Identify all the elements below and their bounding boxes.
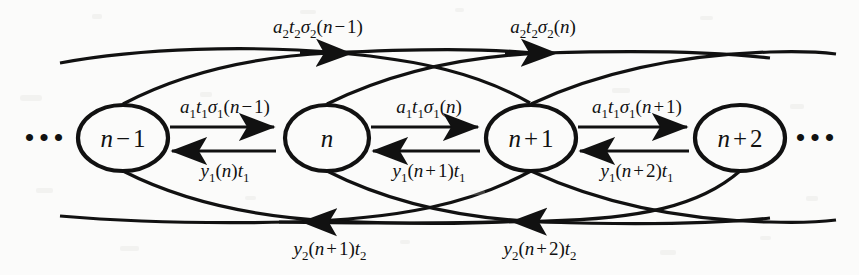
long-forward-edge-label-2: a2t2σ2(n) (510, 16, 576, 41)
long-backward-edge-label-1: y2(n+1)t2 (292, 238, 367, 263)
long-backward-arrowhead-1 (318, 222, 355, 223)
long-forward-edge-labels: a2t2σ2(n−1) a2t2σ2(n) (273, 16, 576, 41)
long-forward-arrowhead-1 (300, 53, 335, 54)
forward-edge-labels: a1t1σ1(n−1) a1t1σ1(n) a1t1σ1(n+1) (180, 96, 682, 121)
node-label-n-plus-1: n+1 (508, 125, 553, 152)
forward-edge-label-2: a1t1σ1(n) (396, 96, 462, 121)
forward-edge-label-3: a1t1σ1(n+1) (592, 96, 682, 121)
backward-edge-label-1: y1(n)t1 (199, 160, 250, 185)
long-backward-edge-label-2: y2(n+2)t2 (502, 238, 577, 263)
node-label-n-plus-2: n+2 (717, 125, 762, 152)
forward-edge-label-1: a1t1σ1(n−1) (180, 96, 270, 121)
node-label-n-minus-1: n−1 (100, 125, 145, 152)
signal-flow-graph-figure: n−1 n n+1 n+2 ••• ••• a2t2σ2(n−1) a2t2σ2… (0, 0, 859, 275)
long-forward-arc-3 (531, 52, 836, 104)
diagram-canvas: n−1 n n+1 n+2 ••• ••• a2t2σ2(n−1) a2t2σ2… (0, 0, 859, 275)
long-forward-arrowhead-2 (505, 53, 540, 54)
backward-edge-labels: y1(n)t1 y1(n+1)t1 y1(n+2)t1 (199, 160, 674, 185)
long-backward-arc-4 (531, 171, 836, 222)
node-label-n: n (321, 125, 334, 152)
long-backward-edge-labels: y2(n+1)t2 y2(n+2)t2 (292, 238, 577, 263)
ellipsis-right: ••• (795, 121, 839, 154)
ellipsis-left: ••• (24, 121, 68, 154)
backward-edge-label-3: y1(n+2)t1 (599, 160, 674, 185)
backward-edge-label-2: y1(n+1)t1 (391, 160, 466, 185)
long-forward-edge-label-1: a2t2σ2(n−1) (273, 16, 363, 41)
node-labels: n−1 n n+1 n+2 (100, 125, 762, 152)
